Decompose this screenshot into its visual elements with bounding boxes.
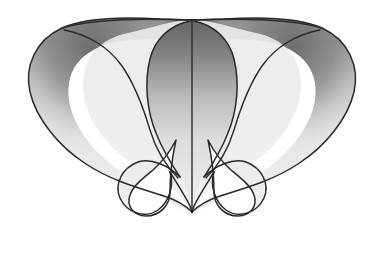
surface-figure: Self-intersecting double-lobed surface S… [0, 0, 384, 266]
figure-root: Self-intersecting double-lobed surface S… [0, 0, 384, 266]
